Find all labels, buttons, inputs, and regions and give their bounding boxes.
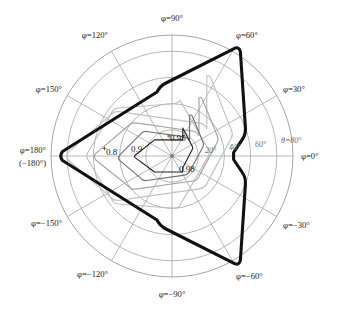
tick-label-theta-80: θ=80° (281, 136, 302, 145)
axis-label-phi-m60: φ=−60° (236, 271, 263, 281)
contour-label-0-8: 0.8 (106, 147, 118, 157)
tick-label-theta-40: 40° (229, 143, 241, 152)
tick-label-theta-20: 20° (205, 146, 217, 155)
axis-label-phi-0: φ=0° (301, 151, 319, 161)
axis-label-phi-60: φ=60° (236, 30, 258, 40)
axis-label-phi-m30: φ=−30° (283, 220, 310, 230)
axis-label-phi-m150: φ=−150° (31, 218, 63, 228)
axis-label-phi-150: φ=150° (36, 84, 63, 94)
axis-label-phi-90: φ=90° (161, 13, 183, 23)
center-marker (170, 154, 174, 158)
axis-label-phi-m90: φ=−90° (159, 289, 186, 299)
contour-label-0-98: 0.98 (179, 164, 195, 174)
tick-label-theta-60: 60° (255, 140, 267, 149)
axis-label-phi-120: φ=120° (82, 30, 109, 40)
contour-label-0-95: 0.95 (170, 133, 186, 143)
polar-chart: 20° 40° 60° θ=80° 0.8 0.9 0.95 0.98 φ=0°… (0, 0, 343, 312)
contour-label-0-9: 0.9 (131, 144, 143, 154)
axis-label-phi-m120: φ=−120° (77, 269, 109, 279)
polar-chart-svg: 20° 40° 60° θ=80° 0.8 0.9 0.95 0.98 φ=0°… (0, 0, 343, 312)
center-dot (170, 154, 174, 158)
radial-tick-labels: 20° 40° 60° θ=80° (205, 136, 302, 155)
axis-label-phi-180: φ=180° (20, 145, 47, 155)
axis-label-phi-180-alt: (−180°) (19, 158, 46, 168)
axis-label-phi-30: φ=30° (283, 84, 305, 94)
